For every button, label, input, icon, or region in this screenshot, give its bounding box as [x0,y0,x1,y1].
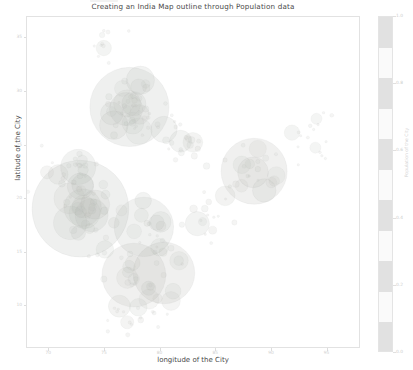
colorbar-tick-label: 0.8 [396,80,403,85]
colorbar-tick-label: 0.2 [396,282,403,287]
y-tick-mark [24,37,27,38]
y-tick-label: 30 [8,88,22,93]
plot-area [26,16,360,348]
colorbar-tick-label: 0.4 [396,215,403,220]
y-tick-mark [24,145,27,146]
colorbar-tick-label: 0.6 [396,147,403,152]
y-tick-mark [24,198,27,199]
x-tick-label: 75 [96,350,112,355]
y-tick-mark [24,305,27,306]
colorbar-tick-label: 0.0 [396,349,403,354]
y-tick-label: 10 [8,302,22,307]
colorbar-tick-label: 1.0 [396,13,403,18]
x-tick-label: 80 [152,350,168,355]
y-tick-mark [24,91,27,92]
x-axis-label: longitude of the City [26,356,360,364]
y-tick-label: 35 [8,34,22,39]
colorbar-gradient [379,17,393,352]
page-title: Creating an India Map outline through Po… [26,2,360,12]
x-tick-label: 85 [207,350,223,355]
y-tick-mark [24,252,27,253]
y-axis-label: latitude of the City [14,98,22,198]
colorbar-label: Population of the City [404,118,409,188]
x-tick-label: 95 [319,350,335,355]
x-tick-label: 70 [40,350,56,355]
y-tick-label: 15 [8,249,22,254]
figure-canvas: Creating an India Map outline through Po… [0,0,413,370]
x-tick-label: 90 [263,350,279,355]
scatter-plot-canvas [27,17,360,348]
colorbar [378,16,393,352]
